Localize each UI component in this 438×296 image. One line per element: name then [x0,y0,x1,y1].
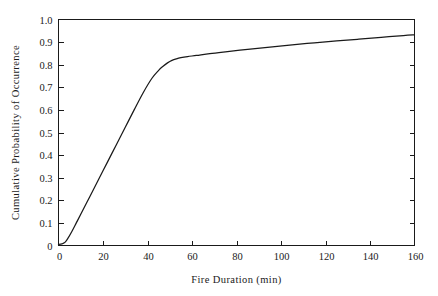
x-tick-label: 80 [232,251,243,262]
y-tick-label: 0 [47,241,52,252]
y-tick-label: 0.6 [39,105,52,116]
x-tick-label: 0 [57,251,62,262]
figure-container: 00.10.20.30.40.50.60.70.80.91.0 02040608… [0,0,438,296]
y-tick-label: 0.4 [39,150,53,161]
x-axis-title: Fire Duration (min) [191,274,282,286]
x-tick-label: 20 [98,251,109,262]
y-tick-label: 0.8 [39,60,52,71]
y-tick-label: 0.5 [39,128,52,139]
y-tick-label: 0.1 [39,218,52,229]
y-tick-label: 0.3 [39,173,52,184]
y-axis-title: Cumulative Probability of Occurrence [10,45,21,220]
y-tick-label: 1.0 [39,15,52,26]
y-tick-label: 0.9 [39,37,52,48]
x-tick-label: 100 [274,251,290,262]
y-tick-label: 0.2 [39,195,52,206]
x-tick-label: 40 [143,251,154,262]
x-tick-label: 140 [363,251,379,262]
x-tick-label: 60 [187,251,198,262]
x-tick-label: 120 [319,251,335,262]
chart-canvas: 00.10.20.30.40.50.60.70.80.91.0 02040608… [0,0,438,296]
y-tick-label: 0.7 [39,82,52,93]
x-tick-label: 160 [408,251,424,262]
